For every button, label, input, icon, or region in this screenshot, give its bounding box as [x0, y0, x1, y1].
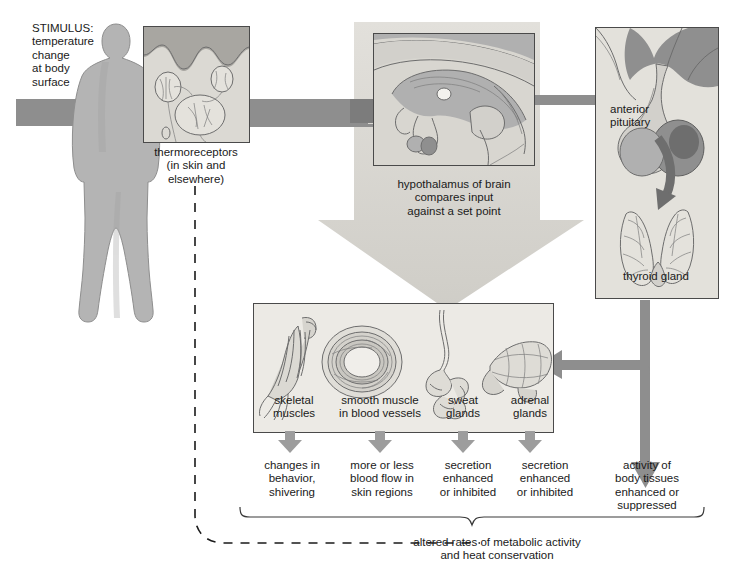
feedback-dashed-line	[150, 160, 480, 560]
endocrine-panel	[595, 27, 719, 299]
thyroid-output-vertical-band	[640, 300, 650, 472]
thyroid-band-corner	[636, 352, 660, 378]
effector-label-adrenal-glands: adrenal glands	[492, 394, 568, 421]
thermoreceptor-panel	[143, 26, 250, 143]
thermoregulation-diagram: STIMULUS: temperature change at body sur…	[0, 0, 756, 584]
hypothalamus-panel	[373, 33, 535, 166]
thyroid-gland-label: thyroid gland	[600, 270, 712, 283]
anterior-pituitary-label: anterior pituitary	[610, 103, 680, 130]
pituitary-thyroid-illustration	[596, 28, 718, 298]
stimulus-label: STIMULUS: temperature change at body sur…	[32, 22, 142, 89]
brain-illustration	[374, 34, 534, 165]
response-text-4: secretion enhanced or inhibited	[503, 459, 587, 499]
feedback-label: altered rates of metabolic activity and …	[382, 536, 612, 563]
receptor-to-hypothalamus-line	[232, 124, 382, 127]
effector-output-arrow-4	[518, 431, 542, 453]
thermoreceptor-illustration	[144, 27, 249, 142]
thyroid-to-adrenal-horizontal-band	[560, 360, 646, 370]
